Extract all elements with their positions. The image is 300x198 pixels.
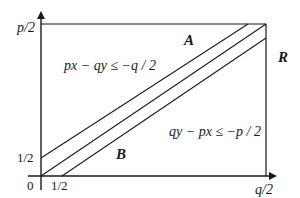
x-right-label: q/2	[255, 182, 273, 197]
lower-inequality: qy − px ≤ −p / 2	[169, 124, 261, 139]
diagram-canvas: p/2 q/2 0 1/2 1/2 A B R px − qy ≤ −q / 2…	[0, 0, 300, 198]
region-r-label: R	[277, 49, 288, 65]
diagonal-line	[41, 24, 266, 176]
region-a-label: A	[183, 32, 194, 48]
x-half-label: 1/2	[51, 178, 68, 193]
upper-inequality: px − qy ≤ −q / 2	[63, 58, 156, 73]
y-top-label: p/2	[16, 20, 35, 35]
origin-label: 0	[27, 178, 34, 193]
region-b-label: B	[115, 146, 126, 162]
y-half-label: 1/2	[17, 150, 34, 165]
